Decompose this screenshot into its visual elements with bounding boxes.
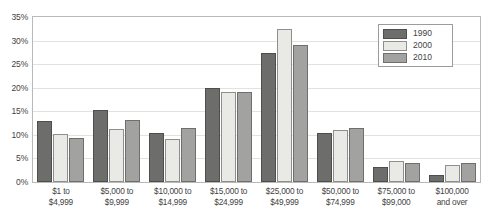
x-axis-label-line: $100,000 — [424, 186, 480, 197]
legend-label: 2010 — [413, 53, 432, 62]
legend-label: 1990 — [413, 29, 432, 38]
bar-group — [257, 17, 313, 182]
x-axis-label-line: $25,000 to — [257, 186, 313, 197]
bar[interactable] — [429, 175, 444, 182]
x-axis-category-label: $1 to$4,999 — [33, 186, 89, 207]
legend-color-swatch — [383, 53, 407, 63]
bar[interactable] — [125, 120, 140, 182]
x-axis-label-line: $9,999 — [89, 197, 145, 208]
x-axis-label-line: $74,999 — [312, 197, 368, 208]
y-axis-tick-label: 20% — [12, 83, 28, 92]
bar[interactable] — [333, 130, 348, 182]
bar[interactable] — [165, 139, 180, 182]
x-axis-label-line: $50,000 to — [312, 186, 368, 197]
x-axis-category-label: $5,000 to$9,999 — [89, 186, 145, 207]
bar[interactable] — [389, 161, 404, 182]
bar-group — [201, 17, 257, 182]
bar[interactable] — [277, 29, 292, 182]
x-axis-label-line: and over — [424, 197, 480, 208]
x-axis-category-label: $15,000 to$24,999 — [201, 186, 257, 207]
legend: 199020002010 — [378, 24, 453, 67]
y-axis-tick-label: 0% — [16, 178, 28, 187]
legend-color-swatch — [383, 29, 407, 39]
bar-group — [33, 17, 89, 182]
x-axis-category-label: $50,000 to$74,999 — [312, 186, 368, 207]
bar-group — [89, 17, 145, 182]
y-axis-tick-label: 35% — [12, 13, 28, 22]
legend-item-2000[interactable]: 2000 — [383, 40, 448, 51]
bar[interactable] — [293, 45, 308, 182]
y-axis-tick-label: 30% — [12, 36, 28, 45]
bar[interactable] — [317, 133, 332, 182]
legend-color-swatch — [383, 41, 407, 51]
x-axis-label-line: $75,000 to — [368, 186, 424, 197]
bar[interactable] — [261, 53, 276, 182]
bar[interactable] — [181, 128, 196, 182]
bar-chart: 0%5%10%15%20%25%30%35% $1 to$4,999$5,000… — [0, 0, 490, 218]
bar[interactable] — [205, 88, 220, 182]
bar[interactable] — [461, 163, 476, 182]
y-axis-tick-label: 15% — [12, 107, 28, 116]
bar[interactable] — [69, 138, 84, 182]
bar[interactable] — [373, 167, 388, 182]
x-axis-category-label: $25,000 to$49,999 — [257, 186, 313, 207]
bar[interactable] — [445, 165, 460, 182]
x-axis-label-line: $4,999 — [33, 197, 89, 208]
x-axis-label-line: $15,000 to — [201, 186, 257, 197]
x-axis-label-line: $1 to — [33, 186, 89, 197]
x-axis-label-line: $14,999 — [145, 197, 201, 208]
x-axis-category-label: $75,000 to$99,000 — [368, 186, 424, 207]
legend-item-2010[interactable]: 2010 — [383, 52, 448, 63]
bar[interactable] — [221, 92, 236, 182]
x-axis-label-line: $49,999 — [257, 197, 313, 208]
x-axis-label-line: $24,999 — [201, 197, 257, 208]
bar[interactable] — [237, 92, 252, 182]
bar[interactable] — [349, 128, 364, 182]
bar[interactable] — [149, 133, 164, 183]
bar[interactable] — [405, 163, 420, 182]
x-axis-category-label: $10,000 to$14,999 — [145, 186, 201, 207]
x-axis-category-label: $100,000and over — [424, 186, 480, 207]
legend-item-1990[interactable]: 1990 — [383, 28, 448, 39]
y-axis-tick-label: 10% — [12, 131, 28, 140]
bar[interactable] — [37, 121, 52, 182]
bar[interactable] — [53, 134, 68, 182]
y-axis-tick-label: 5% — [16, 154, 28, 163]
x-axis-label-line: $5,000 to — [89, 186, 145, 197]
legend-label: 2000 — [413, 41, 432, 50]
bar[interactable] — [93, 110, 108, 182]
x-axis-label-line: $99,000 — [368, 197, 424, 208]
bar-group — [312, 17, 368, 182]
x-axis-labels: $1 to$4,999$5,000 to$9,999$10,000 to$14,… — [33, 186, 480, 216]
bar-group — [145, 17, 201, 182]
x-axis-label-line: $10,000 to — [145, 186, 201, 197]
bar[interactable] — [109, 129, 124, 182]
y-axis-tick-label: 25% — [12, 60, 28, 69]
y-axis: 0%5%10%15%20%25%30%35% — [0, 0, 32, 183]
